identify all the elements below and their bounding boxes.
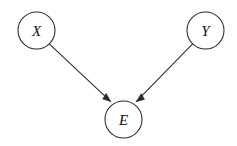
node-x-label: X: [31, 23, 42, 39]
dag-figure: X Y E: [0, 0, 237, 146]
node-e-label: E: [118, 112, 128, 128]
node-x: X: [18, 12, 55, 49]
edge-x-to-e-line: [49, 44, 111, 102]
edge-y-to-e: [136, 44, 192, 102]
edge-x-to-e: [49, 44, 111, 102]
edge-y-to-e-line: [136, 44, 192, 102]
node-y: Y: [187, 12, 224, 49]
nodes-group: X Y E: [18, 12, 224, 138]
dag-canvas: X Y E: [0, 0, 237, 146]
edges-group: [49, 44, 192, 102]
node-e: E: [105, 101, 142, 138]
